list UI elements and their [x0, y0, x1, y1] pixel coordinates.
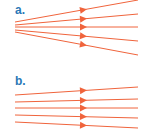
arrowhead-icon	[79, 41, 87, 49]
ray-diagram	[0, 0, 146, 134]
arrowhead-icon	[80, 122, 87, 129]
parallel-rays-group	[15, 87, 138, 129]
arrowhead-icon	[80, 87, 87, 94]
diverging-rays-group	[15, 0, 138, 55]
arrowhead-icon	[80, 97, 87, 104]
arrowhead-icon	[79, 6, 87, 14]
light-ray	[15, 122, 138, 128]
arrowhead-icon	[80, 24, 87, 31]
light-ray	[15, 0, 138, 22]
arrowhead-icon	[80, 15, 88, 23]
light-ray	[15, 87, 138, 95]
arrowhead-icon	[80, 105, 87, 112]
light-ray	[15, 99, 138, 102]
arrowhead-icon	[80, 113, 87, 120]
arrowhead-icon	[80, 32, 88, 40]
light-ray	[15, 115, 138, 118]
light-ray	[15, 14, 138, 25]
